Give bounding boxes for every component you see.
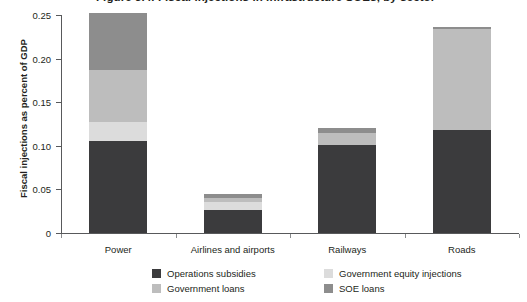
x-axis-category-label: Airlines and airports <box>191 244 275 255</box>
y-axis-tick-label: 0.15 <box>33 97 52 108</box>
stacked-bar[interactable] <box>318 128 376 234</box>
legend-label: Government equity injections <box>339 268 462 279</box>
legend-item[interactable]: Government equity injections <box>324 268 492 279</box>
stacked-bar[interactable] <box>204 194 262 233</box>
bar-segment[interactable] <box>318 128 376 133</box>
legend-swatch-icon <box>152 284 161 293</box>
x-axis-tick <box>405 234 406 238</box>
y-axis-tick <box>56 189 61 190</box>
legend-label: Operations subsidies <box>167 268 256 279</box>
bar-segment[interactable] <box>89 141 147 233</box>
legend-label: SOE loans <box>339 283 384 294</box>
bar-segment[interactable] <box>433 29 491 130</box>
stacked-bar[interactable] <box>433 27 491 233</box>
bar-segment[interactable] <box>89 13 147 70</box>
bar-segment[interactable] <box>204 202 262 210</box>
x-axis-category-label: Railways <box>328 244 366 255</box>
legend-swatch-icon <box>152 269 161 278</box>
y-axis-tick <box>56 15 61 16</box>
y-axis-tick <box>56 146 61 147</box>
legend-label: Government loans <box>167 283 245 294</box>
x-axis-category-label: Power <box>105 244 132 255</box>
y-axis-tick <box>56 102 61 103</box>
x-axis-category-label: Roads <box>448 244 475 255</box>
y-axis-tick-label: 0.25 <box>33 10 52 21</box>
x-axis-tick <box>176 234 177 238</box>
chart-legend: Operations subsidiesGovernment equity in… <box>152 266 492 296</box>
y-axis-tick <box>56 59 61 60</box>
bar-segment[interactable] <box>433 27 491 29</box>
x-axis-tick <box>290 234 291 238</box>
bar-segment[interactable] <box>318 133 376 145</box>
bar-segment[interactable] <box>433 130 491 233</box>
y-axis-tick-label: 0.10 <box>33 140 52 151</box>
y-axis-tick-label: 0.20 <box>33 53 52 64</box>
bar-segment[interactable] <box>89 122 147 141</box>
y-axis-title: Fiscal injections as percent of GDP <box>18 14 29 224</box>
legend-item[interactable]: Government loans <box>152 283 324 294</box>
y-axis-tick-label: 0 <box>46 228 51 239</box>
bar-segment[interactable] <box>204 194 262 198</box>
y-axis-tick-label: 0.05 <box>33 184 52 195</box>
chart-title: Figure 3.4. Fiscal injections in infrast… <box>96 0 435 3</box>
x-axis-tick <box>519 234 520 238</box>
legend-item[interactable]: Operations subsidies <box>152 268 324 279</box>
x-axis-tick <box>61 234 62 238</box>
chart-figure: Figure 3.4. Fiscal injections in infrast… <box>0 0 527 302</box>
bar-segment[interactable] <box>204 210 262 233</box>
bar-segment[interactable] <box>318 145 376 233</box>
legend-item[interactable]: SOE loans <box>324 283 492 294</box>
bar-segment[interactable] <box>89 70 147 122</box>
stacked-bar[interactable] <box>89 13 147 233</box>
legend-swatch-icon <box>324 284 333 293</box>
y-axis-line <box>61 15 62 234</box>
legend-swatch-icon <box>324 269 333 278</box>
bar-segment[interactable] <box>204 198 262 202</box>
